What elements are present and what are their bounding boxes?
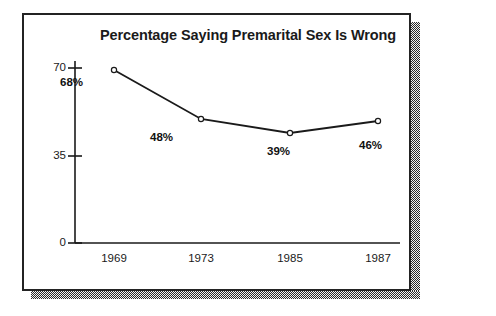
x-axis-tick-label-1985: 1985 <box>260 252 320 264</box>
data-label-1973: 48% <box>150 131 173 143</box>
data-point-marker <box>111 67 116 72</box>
data-point-marker <box>198 116 203 121</box>
y-axis-tick-label-70: 70 <box>32 61 66 73</box>
x-axis-tick-label-1987: 1987 <box>348 252 408 264</box>
data-point-marker <box>375 118 380 123</box>
chart-figure: Percentage Saying Premarital Sex Is Wron… <box>0 0 496 316</box>
y-axis-tick-label-35: 35 <box>32 149 66 161</box>
x-axis-tick-label-1973: 1973 <box>171 252 231 264</box>
y-axis-tick-label-0: 0 <box>32 236 66 248</box>
data-label-1969: 68% <box>60 76 83 88</box>
data-label-1985: 39% <box>267 145 290 157</box>
x-axis-tick-label-1969: 1969 <box>84 252 144 264</box>
plot-area <box>22 13 411 291</box>
data-label-1987: 46% <box>359 139 382 151</box>
figure-shadow-bottom <box>31 291 420 299</box>
figure-shadow-right <box>411 22 420 299</box>
data-point-marker <box>287 130 292 135</box>
data-line-series <box>114 70 378 133</box>
